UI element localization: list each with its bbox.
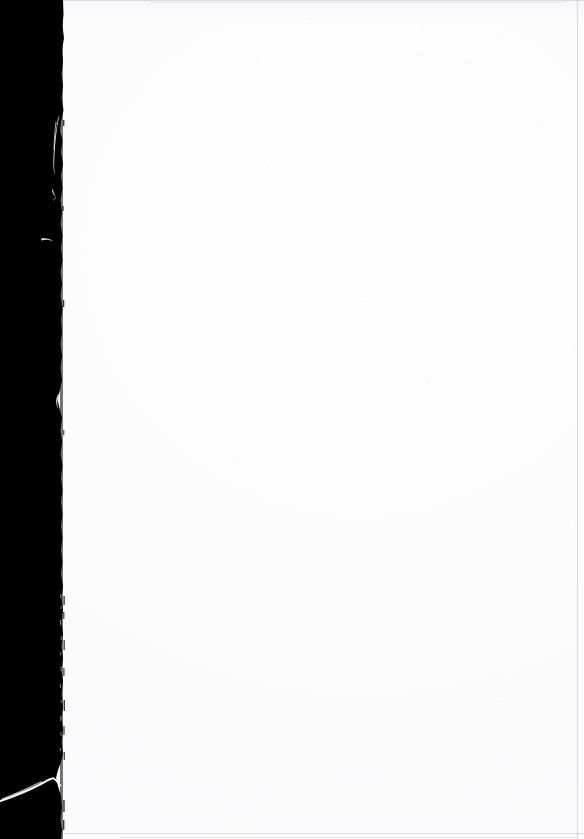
scanner-bed-margin	[0, 0, 110, 839]
scanned-page	[0, 0, 584, 839]
bottom-edge-rule-secondary	[120, 837, 578, 838]
page-body-text	[90, 40, 554, 799]
top-edge-rule	[62, 0, 584, 1]
scanner-bed-shape	[0, 0, 64, 839]
top-edge-rule-secondary	[150, 2, 566, 3]
bottom-edge-rule	[64, 833, 584, 834]
right-edge-rule	[577, 0, 578, 839]
